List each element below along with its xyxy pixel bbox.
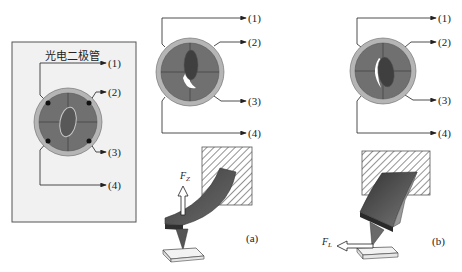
force-label-l: FL: [321, 236, 332, 249]
output-label-4: (4): [108, 179, 121, 192]
output-label-1: (1): [248, 12, 261, 25]
output-label-3: (3): [108, 146, 121, 159]
output-label-2: (2): [108, 86, 121, 99]
force-label-z: FZ: [179, 170, 190, 183]
electrode-dot: [87, 139, 92, 144]
output-label-3: (3): [248, 95, 261, 108]
probe-tip: [176, 229, 188, 250]
output-label-4: (4): [248, 127, 261, 140]
photodiode-panel: 光电二极管 (1) (2) (3) (4): [12, 42, 136, 222]
output-label-2: (2): [438, 36, 451, 49]
caption-a: (a): [246, 232, 259, 245]
afm-photodiode-diagram: 光电二极管 (1) (2) (3) (4) (1) (2) (3: [0, 0, 462, 272]
caption-b: (b): [432, 235, 445, 248]
laser-spot: [184, 50, 198, 80]
vertical-deflection-panel: (1) (2) (3) (4) FZ (a): [156, 12, 261, 262]
lateral-deflection-panel: (1) (2) (3) (4) FL (b): [321, 12, 451, 259]
output-label-3: (3): [438, 94, 451, 107]
electrode-dot: [46, 139, 51, 144]
output-label-1: (1): [438, 12, 451, 25]
electrode-dot: [87, 101, 92, 106]
output-label-2: (2): [248, 36, 261, 49]
output-label-1: (1): [108, 57, 121, 70]
panel-title: 光电二极管: [45, 49, 100, 63]
cantilever: [165, 168, 236, 225]
electrode-dot: [46, 101, 51, 106]
output-label-4: (4): [438, 127, 451, 140]
